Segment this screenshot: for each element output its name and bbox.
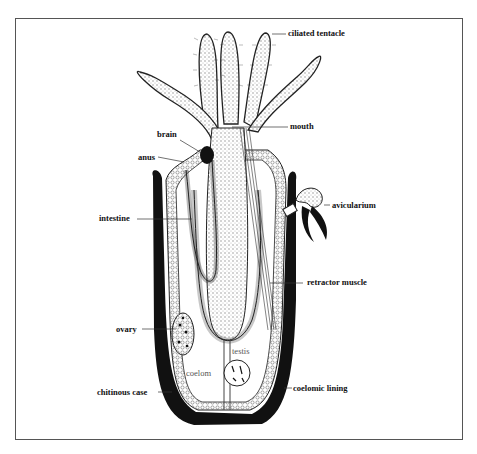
bryozoan-illustration [0, 0, 477, 454]
label-retractor-muscle: retractor muscle [307, 278, 367, 287]
label-chitinous-case: chitinous case [97, 388, 147, 397]
label-coelomic-lining: coelomic lining [293, 384, 348, 393]
brain [200, 146, 214, 164]
ovary [172, 313, 194, 355]
label-ciliated-tentacle: ciliated tentacle [288, 29, 345, 38]
label-brain: brain [157, 130, 177, 139]
label-avicularium: avicularium [332, 201, 376, 210]
label-coelom: coelom [186, 369, 211, 378]
label-mouth: mouth [290, 122, 314, 131]
testis [224, 360, 250, 386]
label-intestine: intestine [99, 214, 130, 223]
label-anus: anus [138, 153, 155, 162]
label-testis: testis [232, 347, 249, 356]
label-ovary: ovary [116, 325, 137, 334]
